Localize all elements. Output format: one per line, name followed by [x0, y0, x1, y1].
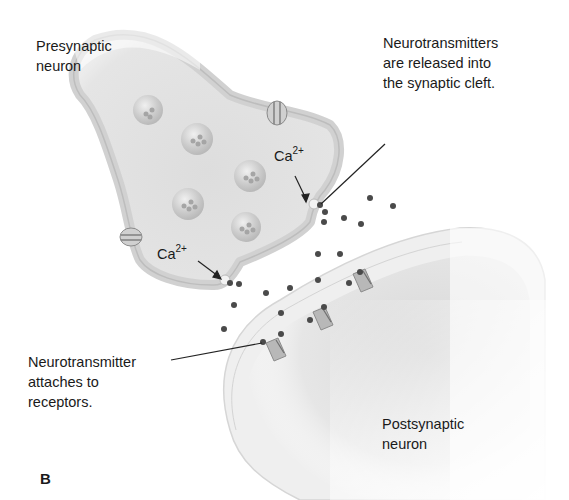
- postsynaptic-neuron: [224, 228, 569, 500]
- ion-channel-top: [267, 101, 287, 125]
- synapse-diagram: Presynaptic neuron Neurotransmitters are…: [0, 0, 569, 500]
- calcium-ion-label-upper: Ca2+: [274, 146, 304, 164]
- calcium-symbol: Ca: [157, 246, 176, 262]
- calcium-symbol: Ca: [274, 148, 293, 164]
- neurotransmitter-release-label: Neurotransmitters are released into the …: [383, 33, 498, 93]
- calcium-charge: 2+: [293, 145, 304, 156]
- panel-label: B: [40, 470, 51, 487]
- ion-channel-left: [120, 228, 142, 246]
- postsynaptic-neuron-label: Postsynaptic neuron: [382, 414, 464, 454]
- calcium-charge: 2+: [176, 243, 187, 254]
- presynaptic-neuron-label: Presynaptic neuron: [36, 36, 112, 76]
- receptor-attachment-label: Neurotransmitter attaches to receptors.: [28, 352, 136, 412]
- calcium-ion-label-lower: Ca2+: [157, 244, 187, 262]
